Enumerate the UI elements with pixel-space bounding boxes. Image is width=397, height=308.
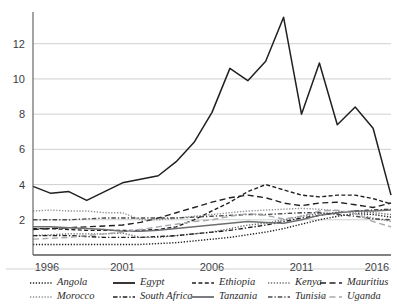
y-tick-label: 12 bbox=[13, 38, 25, 50]
series-line-ethiopia bbox=[33, 185, 391, 231]
x-tick-label: 2001 bbox=[110, 261, 134, 273]
data-series-group bbox=[33, 17, 391, 244]
y-tick-label: 6 bbox=[19, 143, 25, 155]
y-tick-label: 8 bbox=[19, 108, 25, 120]
x-axis-tick-labels: 19962001200620112016 bbox=[35, 261, 389, 273]
x-tick-label: 2011 bbox=[290, 261, 314, 273]
legend-label-morocco: Morocco bbox=[56, 290, 95, 301]
x-tick-label: 2016 bbox=[365, 261, 389, 273]
legend-label-tanzania: Tanzania bbox=[219, 290, 257, 301]
series-line-tanzania bbox=[33, 210, 391, 231]
legend-label-tunisia: Tunisia bbox=[295, 290, 326, 301]
legend-label-angola: Angola bbox=[56, 276, 87, 287]
line-chart: 24681012 19962001200620112016 AngolaEgyp… bbox=[0, 0, 397, 308]
chart-legend: AngolaEgyptEthiopiaKenyaMauritiusMorocco… bbox=[6, 269, 391, 301]
y-tick-label: 10 bbox=[13, 73, 25, 85]
series-line-tunisia bbox=[33, 213, 391, 220]
legend-label-mauritius: Mauritius bbox=[346, 276, 388, 287]
x-tick-label: 2006 bbox=[200, 261, 224, 273]
legend-label-egypt: Egypt bbox=[139, 276, 166, 287]
x-tick-label: 1996 bbox=[35, 261, 59, 273]
y-tick-label: 4 bbox=[19, 179, 25, 191]
gridlines bbox=[33, 44, 391, 220]
axis-lines bbox=[33, 12, 391, 255]
y-tick-label: 2 bbox=[19, 214, 25, 226]
series-line-egypt bbox=[33, 17, 391, 200]
y-axis-tick-labels: 24681012 bbox=[13, 38, 25, 226]
legend-label-ethiopia: Ethiopia bbox=[218, 276, 255, 287]
chart-figure: 24681012 19962001200620112016 AngolaEgyp… bbox=[0, 0, 397, 308]
legend-label-uganda: Uganda bbox=[347, 290, 381, 301]
legend-label-south-africa: South Africa bbox=[140, 290, 193, 301]
legend-label-kenya: Kenya bbox=[294, 276, 322, 287]
